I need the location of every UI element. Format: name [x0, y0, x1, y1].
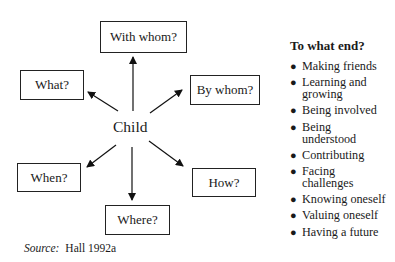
side-panel-title: To what end? [290, 38, 365, 54]
node-label: When? [31, 170, 68, 186]
bullet-icon: ● [290, 60, 297, 72]
node-what: What? [20, 70, 84, 100]
bullet-icon: ● [290, 121, 297, 133]
list-item: ●Being involved [288, 104, 395, 116]
source-label: Source: [24, 242, 59, 254]
node-by-whom: By whom? [190, 75, 260, 105]
list-item: ●Contributing [288, 149, 395, 161]
node-where: Where? [105, 205, 170, 235]
bullet-icon: ● [290, 76, 297, 88]
node-how: How? [192, 168, 256, 197]
node-with-whom: With whom? [100, 21, 187, 53]
bullet-icon: ● [290, 165, 297, 177]
node-label: How? [208, 175, 239, 191]
node-label: What? [35, 77, 69, 93]
list-item: ●Learning and growing [288, 76, 395, 100]
bullet-icon: ● [290, 193, 297, 205]
node-label: Where? [117, 212, 157, 228]
ends-list: ●Making friends ●Learning and growing ●B… [288, 60, 395, 242]
source-text: Hall 1992a [65, 242, 116, 254]
center-node-child: Child [113, 118, 147, 136]
arrow-to-how [149, 141, 183, 166]
node-label: By whom? [197, 82, 254, 98]
list-item: ●Having a future [288, 226, 395, 238]
list-item: ●Knowing oneself [288, 193, 395, 205]
list-item: ●Facing challenges [288, 165, 395, 189]
list-item: ●Being understood [288, 121, 395, 145]
node-label: With whom? [110, 29, 177, 45]
arrow-to-when [87, 145, 116, 167]
arrow-to-by-whom [150, 90, 182, 113]
list-item: ●Making friends [288, 60, 395, 72]
bullet-icon: ● [290, 226, 297, 238]
node-when: When? [17, 163, 81, 192]
arrow-to-what [88, 92, 118, 111]
list-item: ●Valuing oneself [288, 209, 395, 221]
bullet-icon: ● [290, 104, 297, 116]
bullet-icon: ● [290, 209, 297, 221]
bullet-icon: ● [290, 149, 297, 161]
source-caption: Source:Hall 1992a [24, 242, 116, 254]
